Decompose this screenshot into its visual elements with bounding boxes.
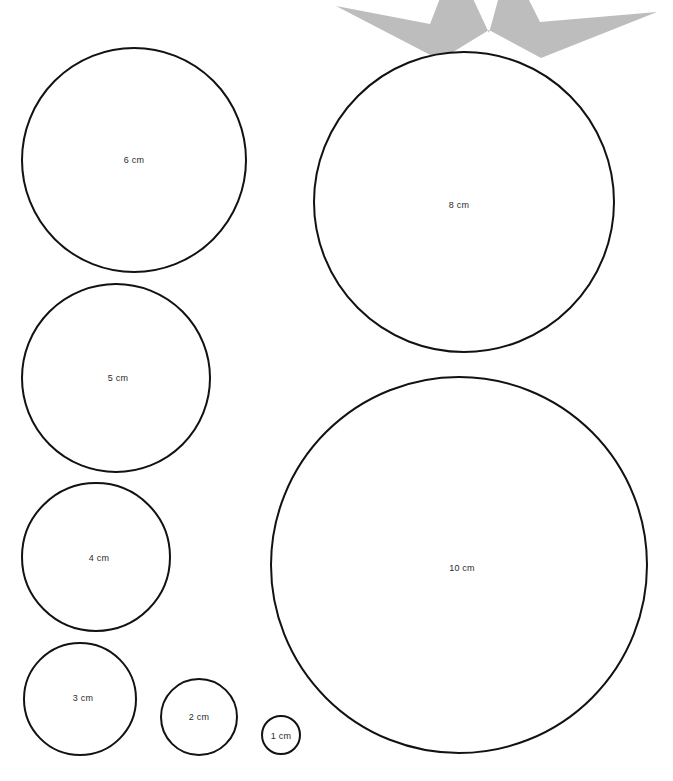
page-canvas: 6 cm8 cm5 cm4 cm10 cm3 cm2 cm1 cm: [0, 0, 673, 781]
star-decoration-group: [336, 0, 657, 60]
circle-3cm-label: 3 cm: [73, 694, 93, 703]
circle-8cm-label: 8 cm: [449, 201, 469, 210]
star-icon: [336, 0, 657, 60]
circle-6cm-label: 6 cm: [124, 156, 144, 165]
circle-10cm-label: 10 cm: [449, 564, 475, 573]
circles-group: [22, 48, 647, 755]
circle-5cm-label: 5 cm: [108, 374, 128, 383]
circle-2cm-label: 2 cm: [189, 713, 209, 722]
circle-1cm-label: 1 cm: [271, 732, 291, 741]
circle-4cm-label: 4 cm: [89, 554, 109, 563]
circle-templates-drawing: [0, 0, 673, 781]
